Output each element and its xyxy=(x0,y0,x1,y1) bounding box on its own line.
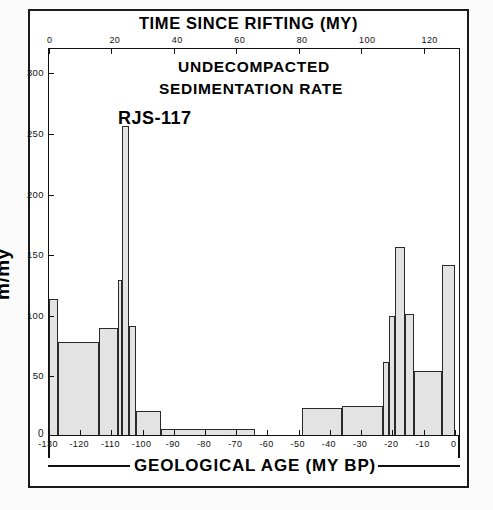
secondary-x-axis-tick xyxy=(299,49,300,54)
x-axis-tick xyxy=(205,430,206,435)
y-axis-tick xyxy=(49,134,54,135)
secondary-x-axis-tick-label: 120 xyxy=(422,35,438,45)
y-axis-tick xyxy=(49,376,54,377)
secondary-x-axis-tick xyxy=(49,49,50,54)
y-axis-tick-label: 150 xyxy=(18,249,44,260)
bar xyxy=(442,265,454,435)
x-axis-tick xyxy=(424,430,425,435)
bottom-axis-title: GEOLOGICAL AGE (MY BP) xyxy=(134,456,376,476)
secondary-x-axis-tick xyxy=(111,49,112,54)
secondary-x-axis-tick xyxy=(236,49,237,54)
secondary-x-axis-tick xyxy=(174,49,175,54)
bar xyxy=(395,247,404,435)
secondary-x-axis-tick-label: 60 xyxy=(234,35,245,45)
x-axis-tick-label: -80 xyxy=(197,439,211,449)
bottom-axis-title-group: GEOLOGICAL AGE (MY BP) xyxy=(48,455,460,477)
x-axis-tick-label: -20 xyxy=(384,439,398,449)
y-axis-tick-label: 100 xyxy=(18,309,44,320)
x-axis-tick xyxy=(299,430,300,435)
bar xyxy=(58,342,99,435)
x-axis-tick xyxy=(236,430,237,435)
y-axis-tick-label: 200 xyxy=(18,188,44,199)
x-axis-tick xyxy=(330,430,331,435)
bottom-bracket-rule-right xyxy=(378,465,460,467)
x-axis-tick xyxy=(361,430,362,435)
secondary-x-axis-tick-label: 40 xyxy=(172,35,183,45)
x-axis-tick-label: -90 xyxy=(166,439,180,449)
bar-series xyxy=(49,49,459,435)
bar xyxy=(161,429,255,435)
secondary-x-axis-tick-label: 0 xyxy=(47,35,52,45)
x-axis-tick-label: -120 xyxy=(69,439,89,449)
x-axis-tick xyxy=(49,430,50,435)
figure-canvas: TIME SINCE RIFTING (MY) 020406080100120 … xyxy=(0,0,493,510)
plot-area xyxy=(48,48,460,436)
y-axis-tick xyxy=(49,316,54,317)
well-identifier: RJS-117 xyxy=(118,108,192,129)
y-axis-tick-label: 50 xyxy=(18,370,44,381)
y-axis-tick xyxy=(49,255,54,256)
bar xyxy=(302,408,343,435)
y-axis-title: m/my xyxy=(0,248,14,300)
secondary-x-axis-tick xyxy=(424,49,425,54)
x-axis-tick-label: -100 xyxy=(132,439,152,449)
x-axis-tick-label: -60 xyxy=(259,439,273,449)
x-axis-tick-label: -30 xyxy=(353,439,367,449)
top-axis-title: TIME SINCE RIFTING (MY) xyxy=(28,14,469,33)
y-axis-tick xyxy=(49,73,54,74)
origin-zero-marker: 0 xyxy=(38,428,44,439)
x-axis-tick xyxy=(80,430,81,435)
x-axis-tick xyxy=(392,430,393,435)
bar xyxy=(49,299,58,435)
secondary-x-axis-tick-label: 20 xyxy=(109,35,120,45)
secondary-x-axis-tick xyxy=(361,49,362,54)
x-axis-tick-label: 0 xyxy=(451,439,456,449)
y-axis-tick-label: 300 xyxy=(18,67,44,78)
y-axis-tick-label: 250 xyxy=(18,127,44,138)
bar xyxy=(136,411,161,435)
x-axis-tick xyxy=(143,430,144,435)
bar xyxy=(129,326,137,435)
x-axis-tick-label: -110 xyxy=(101,439,120,449)
bar xyxy=(99,328,118,435)
y-axis-tick xyxy=(49,195,54,196)
secondary-x-axis-tick-label: 100 xyxy=(359,35,375,45)
bar xyxy=(342,406,383,435)
x-axis-tick xyxy=(455,430,456,435)
bar xyxy=(405,314,414,435)
x-axis-tick xyxy=(267,430,268,435)
bottom-bracket-rule-left xyxy=(48,465,130,467)
x-axis-tick-label: -10 xyxy=(415,439,429,449)
x-axis-tick xyxy=(174,430,175,435)
secondary-x-axis-tick-label: 80 xyxy=(297,35,308,45)
x-axis-tick-label: -70 xyxy=(228,439,242,449)
x-axis-tick-label: -50 xyxy=(291,439,305,449)
x-axis-tick xyxy=(111,430,112,435)
x-axis-tick-label: -40 xyxy=(322,439,336,449)
bar xyxy=(414,371,442,435)
